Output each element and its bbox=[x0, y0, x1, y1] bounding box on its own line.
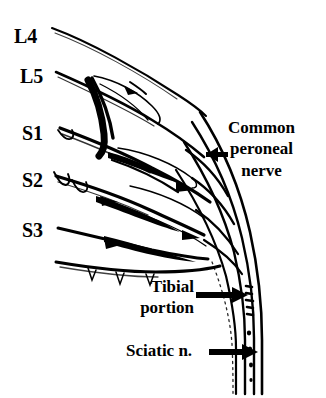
root-label-l4: L4 bbox=[14, 26, 37, 46]
annotation-line: peroneal bbox=[228, 138, 295, 159]
plexus-converge-2 bbox=[192, 178, 234, 224]
sacral-plexus-figure: L4 L5 S1 S2 S3 Common peroneal nerve Tib… bbox=[0, 0, 326, 398]
nerve-root-l5-b bbox=[58, 77, 154, 126]
annotation-line: Tibial bbox=[138, 277, 194, 298]
annotation-line: nerve bbox=[228, 160, 295, 181]
nerve-barb-s3-b bbox=[116, 272, 124, 284]
arrow-sciatic-nerve bbox=[209, 344, 258, 360]
root-label-s3: S3 bbox=[22, 220, 43, 240]
nerve-root-l4-shadow bbox=[55, 33, 177, 99]
annotation-line: portion bbox=[138, 298, 194, 319]
annotation-sciatic-nerve: Sciatic n. bbox=[126, 341, 192, 360]
sciatic-inner-fascicle bbox=[212, 262, 233, 394]
root-label-l5: L5 bbox=[20, 66, 43, 86]
plexus-spindle-1 bbox=[108, 152, 176, 182]
nerve-barb-s3-a bbox=[88, 268, 96, 280]
annotation-line: Common bbox=[228, 117, 295, 138]
root-label-s1: S1 bbox=[22, 123, 43, 143]
nerve-root-l5 bbox=[56, 72, 204, 157]
root-label-s2: S2 bbox=[22, 170, 43, 190]
annotation-common-peroneal-nerve: Common peroneal nerve bbox=[228, 117, 295, 181]
annotation-tibial-portion: Tibial portion bbox=[138, 277, 194, 318]
nerve-diagram-illustration bbox=[0, 0, 326, 398]
